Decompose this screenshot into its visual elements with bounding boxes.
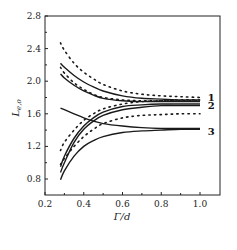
y-tick-label: 1.6 (27, 109, 42, 119)
x-tick-label: 0.4 (77, 199, 92, 209)
series-line (61, 63, 201, 100)
series-line (61, 108, 201, 128)
x-tick-label: 1.0 (193, 199, 208, 209)
series-line (61, 100, 201, 151)
y-tick-label: 2.8 (27, 11, 42, 21)
x-tick-label: 0.8 (154, 199, 169, 209)
y-tick-label: 1.2 (27, 141, 41, 151)
series-number-label: 3 (208, 126, 215, 137)
svg-text:Le,o: Le,o (10, 99, 23, 117)
y-axis-label: Le,o (10, 99, 23, 117)
y-tick-label: 0.8 (27, 174, 42, 184)
x-tick-label: 0.6 (115, 199, 130, 209)
x-axis-label: Γ/d (113, 211, 131, 222)
series-line (61, 106, 201, 173)
data-series (61, 43, 201, 180)
y-tick-label: 2.4 (27, 44, 42, 54)
chart-container: 0.20.40.60.81.00.81.21.62.02.42.8 123 Γ/… (0, 0, 237, 250)
series-number-label: 2 (208, 100, 215, 111)
axis-ticks: 0.20.40.60.81.00.81.21.62.02.42.8 (27, 11, 208, 209)
series-line (61, 67, 201, 100)
series-line (61, 104, 201, 167)
series-labels: 123 (208, 92, 215, 137)
series-line (61, 129, 201, 180)
series-line (61, 114, 201, 165)
x-tick-label: 0.2 (38, 199, 52, 209)
line-chart: 0.20.40.60.81.00.81.21.62.02.42.8 123 Γ/… (0, 0, 237, 250)
y-tick-label: 2.0 (27, 76, 42, 86)
